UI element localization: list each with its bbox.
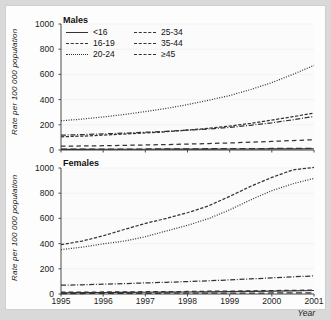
legend-item-≥45[interactable]: ≥45 <box>134 49 202 60</box>
legend-swatch-longdash <box>134 43 156 44</box>
legend-item-35-44[interactable]: 35-44 <box>134 38 202 49</box>
legend-row: 16-1935-44 <box>66 38 216 49</box>
legend-swatch-widedash <box>134 54 156 55</box>
x-tick-label: 1997 <box>136 296 155 306</box>
series-line-35-44 <box>61 140 314 147</box>
series-svg-females <box>6 154 325 309</box>
x-tick-label: 1995 <box>52 296 71 306</box>
legend-label: 20-24 <box>93 49 115 60</box>
legend-swatch-dotted <box>66 54 88 55</box>
legend-swatch-solid <box>66 32 88 33</box>
legend-item-20-24[interactable]: 20-24 <box>66 49 134 60</box>
x-tick-label: 1996 <box>94 296 113 306</box>
x-tick-label: 1998 <box>178 296 197 306</box>
legend-item-25-34[interactable]: 25-34 <box>134 27 202 38</box>
x-axis-label: Year <box>298 308 316 318</box>
panel-males: Rate per 100 000 population 020040060080… <box>6 6 325 154</box>
legend-label: ≥45 <box>161 49 175 60</box>
legend-label: <16 <box>93 27 107 38</box>
figure-card: Rate per 100 000 population 020040060080… <box>6 6 325 309</box>
x-tick-label: 2001 <box>305 296 324 306</box>
series-line-20-24 <box>61 65 314 120</box>
legend-row: 20-24≥45 <box>66 49 216 60</box>
legend-label: 25-34 <box>161 27 183 38</box>
legend-males: <1625-3416-1935-4420-24≥45 <box>66 27 216 60</box>
series-line-16-19 <box>61 167 314 244</box>
panel-females: Rate per 100 000 population 020040060080… <box>6 154 325 309</box>
legend-label: 35-44 <box>161 38 183 49</box>
legend-row: <1625-34 <box>66 27 216 38</box>
series-line-≥45 <box>61 293 314 294</box>
screenshot-root: Rate per 100 000 population 020040060080… <box>0 0 331 320</box>
x-ticks-females: 1995199619971998199920002001 <box>6 296 325 310</box>
legend-label: 16-19 <box>93 38 115 49</box>
series-line-20-24 <box>61 178 314 249</box>
x-tick-label: 1999 <box>220 296 239 306</box>
legend-item-<16[interactable]: <16 <box>66 27 134 38</box>
legend-swatch-dashdot <box>134 32 156 33</box>
legend-item-16-19[interactable]: 16-19 <box>66 38 134 49</box>
legend-swatch-dashed <box>66 43 88 44</box>
x-tick-label: 2000 <box>262 296 281 306</box>
series-line-25-34 <box>61 276 314 285</box>
series-line-25-34 <box>61 116 314 135</box>
